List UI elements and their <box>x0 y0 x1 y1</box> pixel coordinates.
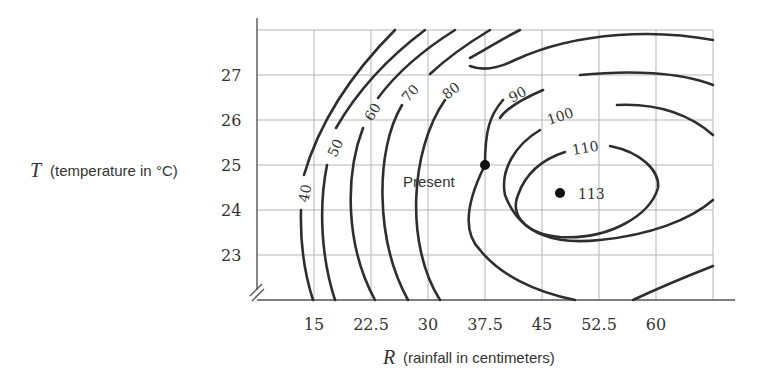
contour-label-80: 80 <box>439 79 463 103</box>
contour-label-70: 70 <box>398 81 422 105</box>
x-tick: 45 <box>532 315 552 334</box>
contour-label-110: 110 <box>571 138 600 158</box>
contour-label-100: 100 <box>545 104 575 127</box>
contour-label-40: 40 <box>295 183 314 204</box>
x-tick: 30 <box>418 315 438 334</box>
axes <box>250 18 735 301</box>
y-tick: 24 <box>221 201 241 220</box>
y-axis-text: (temperature in °C) <box>50 162 178 179</box>
contour-label-50: 50 <box>324 136 346 159</box>
x-tick: 22.5 <box>353 315 389 334</box>
y-axis-label: T (temperature in °C) <box>30 159 178 181</box>
x-axis-var: R <box>382 346 395 368</box>
max-point <box>555 188 565 198</box>
present-point <box>480 160 490 170</box>
x-axis-text: (rainfall in centimeters) <box>403 349 555 366</box>
contour-90 <box>470 34 713 68</box>
x-tick: 52.5 <box>581 315 617 334</box>
y-tick: 23 <box>221 246 241 265</box>
y-axis-var: T <box>30 159 43 181</box>
x-tick: 37.5 <box>467 315 503 334</box>
x-tick-labels: 15 22.5 30 37.5 45 52.5 60 <box>304 315 666 334</box>
y-tick: 26 <box>221 111 241 130</box>
x-axis-label: R (rainfall in centimeters) <box>382 346 555 368</box>
x-tick: 60 <box>646 315 666 334</box>
y-tick: 25 <box>221 156 241 175</box>
contour-chart: 40 50 60 70 80 90 100 110 Present 113 27… <box>0 0 759 384</box>
contour-label-90: 90 <box>506 83 529 105</box>
y-tick-labels: 27 26 25 24 23 <box>221 66 241 265</box>
y-tick: 27 <box>221 66 241 85</box>
max-label: 113 <box>578 186 605 202</box>
present-label: Present <box>403 173 456 190</box>
contour-80 <box>470 30 520 58</box>
contour-40 <box>304 30 395 175</box>
x-tick: 15 <box>304 315 324 334</box>
